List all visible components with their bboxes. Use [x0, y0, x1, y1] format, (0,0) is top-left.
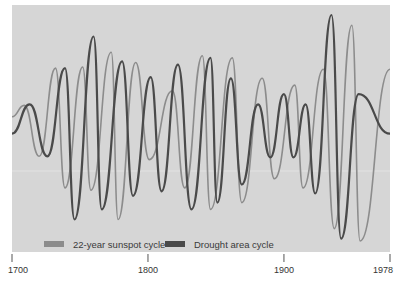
- legend-item-sunspot: 22-year sunspot cycle: [44, 239, 165, 250]
- x-axis-ticks: [12, 254, 390, 262]
- sunspot-swatch-icon: [44, 241, 64, 247]
- tick-label-1900: 1900: [274, 265, 294, 275]
- tick-label-1700: 1700: [8, 265, 28, 275]
- tick-label-1978: 1978: [373, 265, 393, 275]
- legend-label-sunspot: 22-year sunspot cycle: [73, 239, 165, 250]
- legend-item-drought: Drought area cycle: [165, 239, 274, 250]
- tick-label-1800: 1800: [138, 265, 158, 275]
- drought-swatch-icon: [165, 241, 185, 247]
- legend-label-drought: Drought area cycle: [194, 239, 274, 250]
